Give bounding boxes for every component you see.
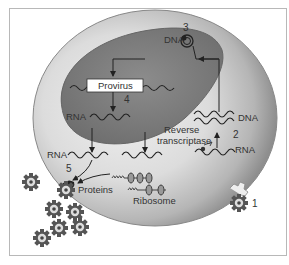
step-1: 1 <box>252 198 258 209</box>
virus-particle-icon <box>22 173 40 191</box>
label-ribosome: Ribosome <box>133 195 176 206</box>
step-3: 3 <box>183 22 189 33</box>
label-dna-cytoplasm: DNA <box>238 112 259 123</box>
virus-particle-icon <box>45 200 63 218</box>
label-dna-nucleus: DNA <box>164 34 185 45</box>
retrovirus-diagram: DNA 3 Provirus 4 RNA RNA 5 Proteins Ribo… <box>0 0 289 265</box>
label-rna-nucleus: RNA <box>66 111 87 122</box>
label-transcriptase: transcriptase <box>157 135 211 146</box>
virus-particle-icon <box>57 181 75 199</box>
label-provirus: Provirus <box>98 80 133 91</box>
step-2: 2 <box>233 129 239 140</box>
virus-particle-icon <box>50 219 68 237</box>
virus-particle-icon <box>33 229 51 247</box>
label-reverse: Reverse <box>164 124 199 135</box>
label-rna-cytoplasm: RNA <box>47 149 68 160</box>
label-proteins: Proteins <box>78 184 113 195</box>
virus-particle-icon <box>230 194 248 212</box>
virus-particle-icon <box>71 218 89 236</box>
step-5: 5 <box>66 163 72 174</box>
step-4: 4 <box>124 94 130 105</box>
label-rna-viral: RNA <box>235 144 256 155</box>
